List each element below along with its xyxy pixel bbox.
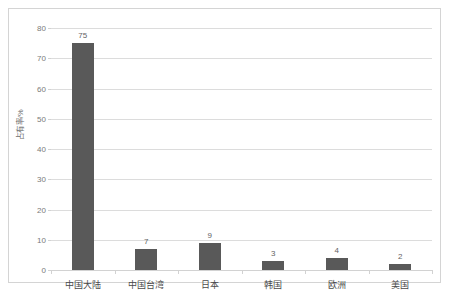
bar-slot: 75 <box>51 28 115 270</box>
y-axis-tick-label: 40 <box>37 145 46 154</box>
x-axis-tick-mark <box>305 270 306 274</box>
x-axis-category-label: 欧洲 <box>328 278 346 291</box>
x-axis-category-label: 中国大陆 <box>65 278 101 291</box>
bar[interactable] <box>72 43 94 270</box>
y-axis-tick-label: 30 <box>37 175 46 184</box>
y-axis-tick-label: 0 <box>42 266 46 275</box>
bar[interactable] <box>262 261 284 270</box>
x-axis-tick-mark <box>432 270 433 274</box>
bar[interactable] <box>135 249 157 270</box>
bar-value-label: 7 <box>144 237 148 246</box>
bar-value-label: 75 <box>78 31 87 40</box>
bar-slot: 3 <box>242 28 306 270</box>
x-axis-tick-mark <box>242 270 243 274</box>
x-axis-tick-mark <box>51 270 52 274</box>
bar[interactable] <box>389 264 411 270</box>
x-axis-category-label: 中国台湾 <box>128 278 164 291</box>
bar-value-label: 2 <box>398 252 402 261</box>
y-axis-tick-label: 60 <box>37 84 46 93</box>
bar-slot: 2 <box>369 28 433 270</box>
bar-value-label: 4 <box>335 246 339 255</box>
x-axis-category-label: 韩国 <box>264 278 282 291</box>
bar-slot: 9 <box>178 28 242 270</box>
x-axis-tick-mark <box>178 270 179 274</box>
bar-value-label: 9 <box>208 231 212 240</box>
x-axis-category-label: 美国 <box>391 278 409 291</box>
bar[interactable] <box>199 243 221 270</box>
bar-value-label: 3 <box>271 249 275 258</box>
x-axis-category-label: 日本 <box>201 278 219 291</box>
plot-area: 01020304050607080 7579342 中国大陆中国台湾日本韩国欧洲… <box>51 28 432 270</box>
x-axis-tick-mark <box>115 270 116 274</box>
y-axis-tick-label: 20 <box>37 205 46 214</box>
y-axis-tick-label: 50 <box>37 114 46 123</box>
y-axis-title: 占有率/% <box>14 65 25 185</box>
y-axis-tick-label: 70 <box>37 54 46 63</box>
bar-slot: 7 <box>115 28 179 270</box>
bar-slot: 4 <box>305 28 369 270</box>
x-axis-tick-mark <box>369 270 370 274</box>
chart-frame: 占有率/% 01020304050607080 7579342 中国大陆中国台湾… <box>8 8 441 283</box>
bar[interactable] <box>326 258 348 270</box>
y-axis-tick-label: 10 <box>37 235 46 244</box>
y-axis-tick-label: 80 <box>37 24 46 33</box>
